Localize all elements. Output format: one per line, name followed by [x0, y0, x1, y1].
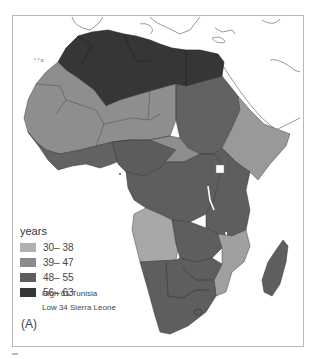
legend-label: 48– 55 [43, 272, 74, 283]
legend-swatch [20, 273, 36, 282]
legend-label: 30– 38 [43, 242, 74, 253]
legend-swatch [20, 243, 36, 252]
cape-verde-islands: ° ° o [34, 57, 44, 63]
region-madagascar [262, 240, 288, 296]
region-southern-africa [140, 258, 222, 334]
legend-item: 39– 47 [20, 255, 74, 270]
divider-mark [12, 353, 18, 355]
legend-title: years [20, 225, 74, 237]
sao-tome-island [119, 173, 121, 175]
legend-item: 30– 38 [20, 240, 74, 255]
legend-swatch [20, 258, 36, 267]
legend-label: 39– 47 [43, 257, 74, 268]
high-value-note: High 61 Tunisia [42, 289, 97, 298]
panel-label: (A) [21, 317, 37, 331]
legend-item: 48– 55 [20, 270, 74, 285]
low-value-note: Low 34 Sierra Leone [42, 303, 116, 312]
lake-victoria [216, 165, 224, 173]
lesotho [194, 309, 202, 315]
legend-swatch [20, 288, 36, 297]
